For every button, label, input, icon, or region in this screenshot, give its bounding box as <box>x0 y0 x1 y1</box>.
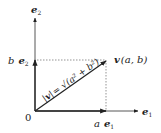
e1-axis-label: e1 <box>142 106 152 118</box>
b-e2-label: be2 <box>8 55 29 67</box>
vector-diagram: e2 be2 0 ae1 e1 v(a, b) |v|= √(a² + b²) <box>0 0 161 133</box>
e2-axis-label: e2 <box>31 4 41 16</box>
magnitude-label: |v|= √(a² + b²) <box>40 57 102 105</box>
origin-label: 0 <box>25 112 31 123</box>
vector-point-label: v(a, b) <box>114 54 147 65</box>
a-e1-label: ae1 <box>94 118 114 130</box>
